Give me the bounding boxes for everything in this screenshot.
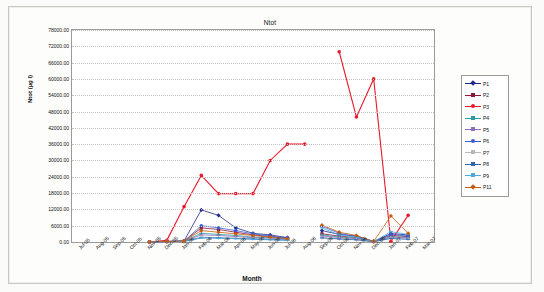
y-axis-tick: 42000.00 xyxy=(48,125,69,131)
legend-item-P8[interactable]: P8 xyxy=(465,159,506,171)
legend-label: P7 xyxy=(481,150,489,156)
legend-label: P1 xyxy=(481,81,489,87)
data-point xyxy=(406,214,410,218)
legend-item-P2[interactable]: P2 xyxy=(465,90,506,102)
data-point xyxy=(320,227,324,228)
chart-legend: P1P2P3P4P5P6P7P8P9P11 xyxy=(461,75,509,197)
legend-label: P8 xyxy=(481,161,489,167)
y-axis-tick: 6000.00 xyxy=(51,223,69,229)
data-point xyxy=(182,205,186,209)
legend-label: P4 xyxy=(481,115,489,121)
legend-marker-icon xyxy=(465,183,481,192)
grid-line xyxy=(72,63,434,64)
data-point xyxy=(355,115,359,119)
y-axis-tick: 0.00 xyxy=(59,239,69,245)
grid-line xyxy=(72,226,434,227)
y-axis-tick: 78000.00 xyxy=(48,27,69,33)
legend-marker-icon xyxy=(465,160,481,169)
grid-line xyxy=(72,193,434,194)
data-point xyxy=(337,234,341,235)
data-point xyxy=(199,237,203,238)
data-point xyxy=(217,238,221,239)
grid-line xyxy=(72,128,434,129)
legend-label: P5 xyxy=(481,127,489,133)
legend-marker-icon xyxy=(465,148,481,157)
legend-item-P5[interactable]: P5 xyxy=(465,124,506,136)
data-point xyxy=(337,50,341,54)
legend-item-P3[interactable]: P3 xyxy=(465,101,506,113)
grid-line xyxy=(72,160,434,161)
data-point xyxy=(234,238,238,239)
y-axis-tick: 30000.00 xyxy=(48,157,69,163)
data-point xyxy=(389,231,393,232)
chart-title: Ntot xyxy=(9,19,531,26)
legend-label: P6 xyxy=(481,138,489,144)
legend-item-P7[interactable]: P7 xyxy=(465,147,506,159)
legend-item-P9[interactable]: P9 xyxy=(465,170,506,182)
y-axis-tick: 18000.00 xyxy=(48,190,69,196)
grid-line xyxy=(72,79,434,80)
grid-line xyxy=(72,209,434,210)
chart-plate: Ntot Ntot (µg l) 0.006000.0012000.001800… xyxy=(8,6,532,284)
data-point xyxy=(389,238,393,239)
legend-marker-icon xyxy=(465,125,481,134)
data-point xyxy=(320,237,324,238)
y-axis-label: Ntot (µg l) xyxy=(27,75,33,103)
screenshot-root: Ntot Ntot (µg l) 0.006000.0012000.001800… xyxy=(0,0,544,292)
y-axis-tick: 54000.00 xyxy=(48,92,69,98)
data-point xyxy=(389,233,393,237)
legend-item-P11[interactable]: P11 xyxy=(465,182,506,194)
y-axis-tick: 66000.00 xyxy=(48,60,69,66)
grid-line xyxy=(72,177,434,178)
legend-marker-icon xyxy=(465,102,481,111)
legend-label: P11 xyxy=(481,184,492,190)
series-line xyxy=(150,52,409,242)
legend-marker-icon xyxy=(465,137,481,146)
legend-item-P1[interactable]: P1 xyxy=(465,78,506,90)
legend-item-P4[interactable]: P4 xyxy=(465,113,506,125)
legend-marker-icon xyxy=(465,171,481,180)
legend-marker-icon xyxy=(465,91,481,100)
y-axis-tick: 36000.00 xyxy=(48,141,69,147)
grid-line xyxy=(72,144,434,145)
y-axis-tick: 72000.00 xyxy=(48,43,69,49)
grid-line xyxy=(72,30,434,31)
legend-label: P2 xyxy=(481,92,489,98)
y-axis-tick: 60000.00 xyxy=(48,76,69,82)
legend-label: P3 xyxy=(481,104,489,110)
grid-line xyxy=(72,112,434,113)
grid-line xyxy=(72,46,434,47)
y-axis-tick: 24000.00 xyxy=(48,174,69,180)
legend-item-P6[interactable]: P6 xyxy=(465,136,506,148)
plot-area: 0.006000.0012000.0018000.0024000.0030000… xyxy=(71,29,435,243)
legend-marker-icon xyxy=(465,114,481,123)
grid-line xyxy=(72,95,434,96)
y-axis-tick: 12000.00 xyxy=(48,206,69,212)
legend-marker-icon xyxy=(465,79,481,88)
x-axis-label: Month xyxy=(71,275,433,282)
data-point xyxy=(320,228,324,232)
legend-label: P9 xyxy=(481,173,489,179)
y-axis-tick: 48000.00 xyxy=(48,109,69,115)
